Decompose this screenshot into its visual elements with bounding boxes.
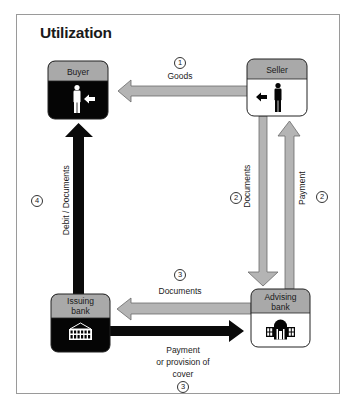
documents-to-issuing-label: Documents	[159, 287, 202, 296]
issuing-bank-label-line1: Issuing	[67, 296, 94, 306]
documents-down-arrow	[248, 116, 278, 286]
payment-cover-label-line1: Payment	[156, 344, 209, 356]
goods-label: Goods	[167, 72, 192, 81]
payment-cover-label: Payment or provision of cover	[156, 344, 209, 380]
advising-bank-label-line2: bank	[271, 302, 290, 312]
seller-label: Seller	[266, 65, 288, 75]
issuing-bank-label-line2: bank	[71, 306, 90, 316]
step-3-payment-marker: 3	[177, 381, 189, 393]
buyer-node: Buyer	[48, 61, 108, 119]
goods-arrow	[118, 80, 248, 102]
payment-to-seller-label: Payment	[298, 168, 307, 208]
seller-node: Seller	[247, 59, 307, 116]
buyer-label: Buyer	[67, 67, 89, 77]
advising-bank-label-line1: Advising	[264, 292, 296, 302]
payment-cover-label-line2: or provision of	[156, 356, 209, 368]
step-3-documents-marker: 3	[174, 269, 186, 281]
documents-left-arrow	[117, 298, 251, 320]
advising-bank-node: Advising bank	[251, 289, 310, 347]
step-4-marker: 4	[31, 195, 43, 207]
step-2-payment-marker: 2	[316, 191, 328, 203]
step-2-documents-marker: 2	[230, 192, 242, 204]
step-1-marker: 1	[174, 57, 186, 69]
documents-to-advising-label: Documents	[243, 161, 252, 211]
issuing-bank-node: Issuing bank	[51, 294, 110, 352]
debit-documents-label: Debit / Documents	[62, 160, 71, 240]
payment-cover-arrow	[110, 320, 244, 342]
payment-cover-label-line3: cover	[156, 368, 209, 380]
